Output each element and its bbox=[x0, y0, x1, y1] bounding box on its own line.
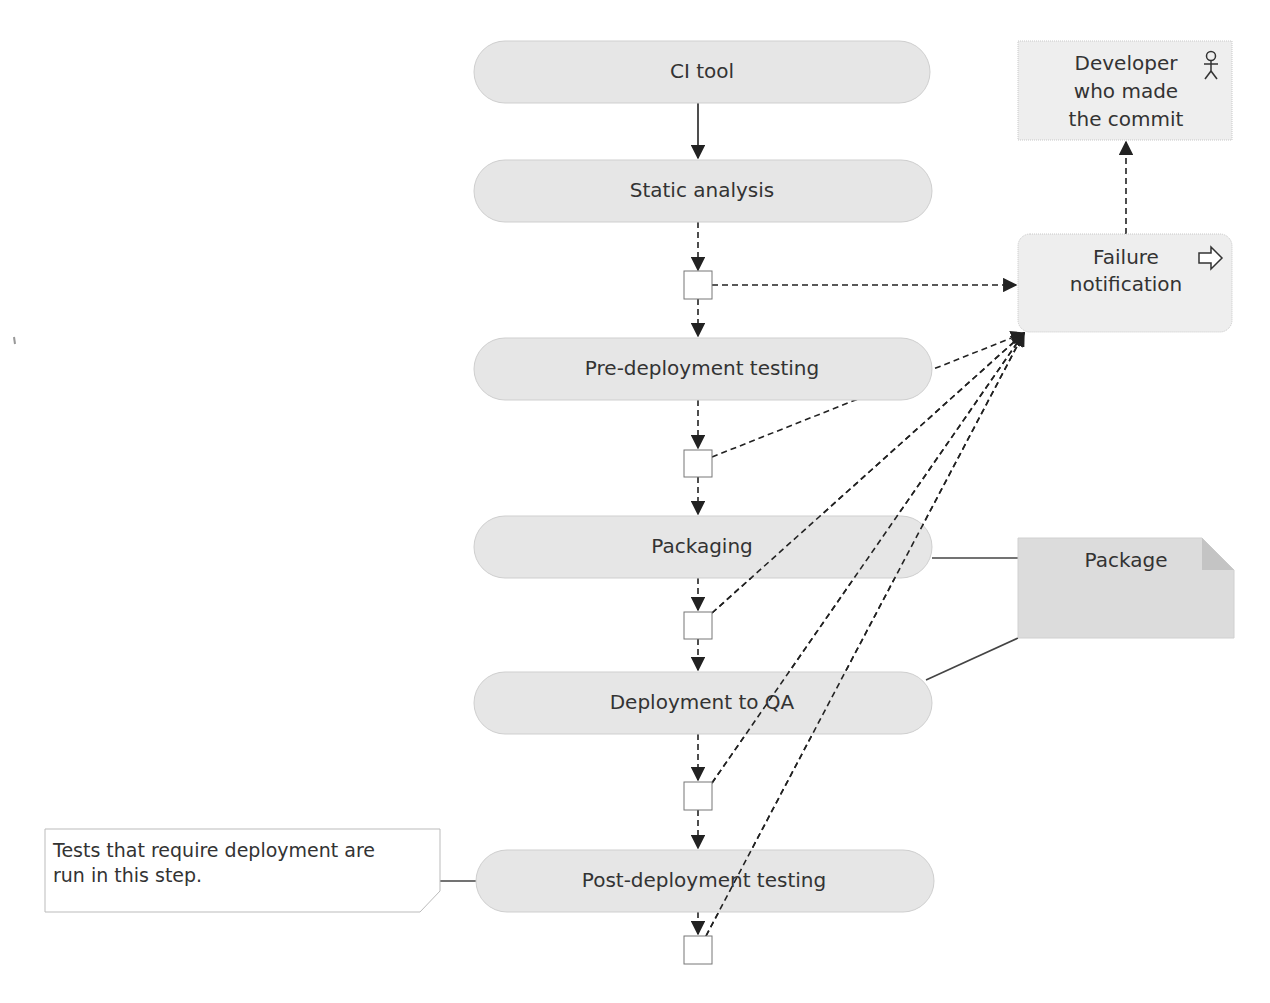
package-label: Package bbox=[1085, 548, 1168, 572]
edges-overlay bbox=[706, 333, 1024, 936]
developer-node[interactable]: Developer who made the commit bbox=[1018, 41, 1232, 140]
developer-label-line3: the commit bbox=[1069, 107, 1184, 131]
failure-label-line1: Failure bbox=[1093, 245, 1159, 269]
step-label: Pre-deployment testing bbox=[585, 356, 819, 380]
decision-node-1[interactable] bbox=[684, 271, 712, 299]
comment-line2: run in this step. bbox=[53, 864, 202, 886]
step-pre-deployment-testing[interactable]: Pre-deployment testing bbox=[474, 338, 932, 400]
step-post-deployment-testing[interactable]: Post-deployment testing bbox=[476, 850, 934, 912]
step-label: Static analysis bbox=[630, 178, 775, 202]
step-packaging[interactable]: Packaging bbox=[474, 516, 932, 578]
edge-deployqa-to-package bbox=[926, 638, 1018, 680]
step-deployment-to-qa[interactable]: Deployment to QA bbox=[474, 672, 932, 734]
decision-node-2[interactable] bbox=[684, 450, 712, 477]
ci-pipeline-diagram: CI tool Static analysis Pre-deployment t… bbox=[0, 0, 1270, 1003]
comment-note[interactable]: Tests that require deployment are run in… bbox=[45, 829, 440, 912]
decision-node-4[interactable] bbox=[684, 782, 712, 810]
stray-mark bbox=[14, 337, 15, 344]
failure-label-line2: notification bbox=[1070, 272, 1182, 296]
developer-label-line2: who made bbox=[1074, 79, 1178, 103]
package-artifact-node[interactable]: Package bbox=[1018, 538, 1234, 638]
decision-node-3[interactable] bbox=[684, 612, 712, 639]
step-static-analysis[interactable]: Static analysis bbox=[474, 160, 932, 222]
step-label: Deployment to QA bbox=[610, 690, 795, 714]
decision-node-5[interactable] bbox=[684, 936, 712, 964]
step-label: Packaging bbox=[651, 534, 753, 558]
step-label: CI tool bbox=[670, 59, 734, 83]
step-ci-tool[interactable]: CI tool bbox=[474, 41, 930, 103]
failure-notification-node[interactable]: Failure notification bbox=[1018, 234, 1232, 332]
developer-label-line1: Developer bbox=[1075, 51, 1179, 75]
step-label: Post-deployment testing bbox=[582, 868, 826, 892]
comment-line1: Tests that require deployment are bbox=[52, 839, 375, 861]
